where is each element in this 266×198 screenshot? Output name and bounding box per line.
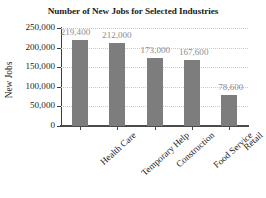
y-axis-tick-labels-group: 050,000100,000150,000200,000250,000	[5, 28, 55, 126]
y-axis-tick-label: 150,000	[7, 61, 55, 71]
bar-value-label: 212,000	[102, 30, 132, 40]
bar-value-label: 167,600	[179, 47, 209, 57]
y-axis-tick-label: 100,000	[7, 81, 55, 91]
y-axis-tick	[57, 67, 61, 68]
y-axis-tick-label: 0	[7, 120, 55, 130]
bar	[221, 95, 237, 126]
x-axis-category-label: Health Care	[98, 130, 137, 167]
bar	[72, 40, 88, 126]
bar	[109, 43, 125, 126]
bar-chart-figure: Number of New Jobs for Selected Industri…	[0, 0, 266, 198]
bar	[184, 60, 200, 126]
y-axis-tick	[57, 106, 61, 107]
bar-value-label: 173,000	[141, 45, 171, 55]
y-axis-tick-label: 200,000	[7, 42, 55, 52]
y-axis-tick	[57, 126, 61, 127]
y-axis-tick-label: 250,000	[7, 22, 55, 32]
y-axis-tick-label: 50,000	[7, 100, 55, 110]
y-axis-line	[61, 27, 62, 127]
plot-area: 050,000100,000150,000200,000250,000 219,…	[61, 28, 248, 126]
y-axis-tick	[57, 48, 61, 49]
bar	[147, 58, 163, 126]
bar-value-label: 219,400	[61, 27, 91, 37]
y-axis-tick	[57, 87, 61, 88]
bar-value-label: 78,600	[218, 82, 243, 92]
chart-title: Number of New Jobs for Selected Industri…	[0, 6, 266, 16]
x-axis-category-labels-group: Health CareTemporary HelpConstructionFoo…	[61, 130, 261, 196]
